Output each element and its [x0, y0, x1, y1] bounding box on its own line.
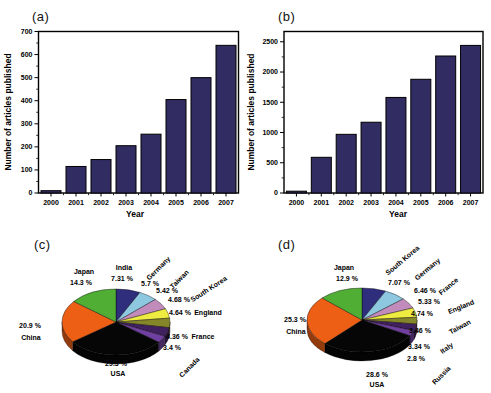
- panel-a-letter: (a): [32, 9, 49, 24]
- panel-b-letter: (b): [278, 9, 295, 24]
- y-axis-label: Number of articles published: [3, 53, 13, 170]
- charts-canvas: 0100200300400500600700200020012002200320…: [0, 0, 491, 393]
- bar-chart-b: 0500100015002000250020002001200220032004…: [246, 32, 483, 220]
- bar-2005: [411, 79, 431, 193]
- pie-label-USA: USA: [111, 370, 126, 377]
- y-tick-label: 200: [21, 143, 33, 150]
- pie-pct-USA: 28.6 %: [366, 371, 389, 378]
- pie-label-France: France: [437, 276, 459, 296]
- bar-2007: [461, 45, 481, 193]
- pie-pct-Canada: 3.4 %: [163, 344, 182, 351]
- y-tick-label: 2000: [262, 68, 278, 75]
- x-tick-label: 2005: [413, 199, 429, 206]
- x-tick-label: 2001: [314, 199, 330, 206]
- panel-c-letter: (c): [34, 237, 51, 252]
- y-tick-label: 0: [29, 189, 33, 196]
- pie-pct-Taiwan: 5.42 %: [156, 287, 179, 294]
- bar-2001: [311, 157, 331, 193]
- y-tick-label: 1500: [262, 99, 278, 106]
- y-tick-label: 2500: [262, 38, 278, 45]
- bar-2005: [166, 100, 186, 193]
- x-tick-label: 2000: [43, 199, 59, 206]
- pie-label-USA: USA: [370, 381, 385, 388]
- x-tick-label: 2007: [463, 199, 479, 206]
- pie-pct-England: 4.64 %: [169, 309, 192, 316]
- pie-label-South Korea: South Korea: [189, 275, 228, 304]
- pie-pct-China: 20.9 %: [19, 322, 42, 329]
- pie-pct-South Korea: 4.68 %: [168, 296, 191, 303]
- x-tick-label: 2007: [218, 199, 234, 206]
- pie-label-India: India: [116, 264, 132, 271]
- pie-label-England: England: [194, 309, 222, 317]
- pie-label-Taiwan: Taiwan: [448, 318, 472, 335]
- x-axis-label: Year: [389, 209, 408, 219]
- pie-pct-Japan: 12.9 %: [336, 275, 359, 282]
- bar-2002: [91, 160, 111, 193]
- pie-pct-USA: 29.3 %: [105, 360, 128, 367]
- x-axis-label: Year: [126, 209, 145, 219]
- x-tick-label: 2002: [93, 199, 109, 206]
- y-tick-label: 700: [21, 28, 33, 35]
- bar-2006: [436, 56, 456, 193]
- x-tick-label: 2004: [143, 199, 159, 206]
- y-tick-label: 500: [266, 159, 278, 166]
- pie-label-Germany: Germany: [145, 255, 172, 282]
- bar-2001: [66, 166, 86, 193]
- pie-chart-c: India7.31 %Germany5.7 %Taiwan5.42 %South…: [19, 255, 228, 379]
- bar-2002: [336, 134, 356, 193]
- pie-label-France: France: [192, 333, 215, 340]
- x-tick-label: 2001: [68, 199, 84, 206]
- panel-d-letter: (d): [278, 237, 295, 252]
- pie-pct-Italy: 3.34 %: [408, 343, 431, 350]
- x-tick-label: 2002: [338, 199, 354, 206]
- bar-2003: [361, 122, 381, 193]
- y-tick-label: 1000: [262, 129, 278, 136]
- y-tick-label: 400: [21, 97, 33, 104]
- y-tick-label: 100: [21, 166, 33, 173]
- y-axis-label: Number of articles published: [246, 53, 256, 170]
- x-tick-label: 2003: [363, 199, 379, 206]
- pie-pct-France: 4.36 %: [166, 333, 189, 340]
- pie-pct-South Korea: 7.07 %: [388, 279, 411, 286]
- y-tick-label: 600: [21, 51, 33, 58]
- pie-label-Russia: Russia: [431, 365, 452, 386]
- bar-chart-a: 0100200300400500600700200020012002200320…: [3, 28, 239, 219]
- y-tick-label: 0: [274, 189, 278, 196]
- bar-2004: [141, 134, 161, 193]
- pie-pct-France: 5.33 %: [418, 298, 441, 305]
- pie-label-England: England: [447, 298, 476, 316]
- pie-label-Japan: Japan: [74, 268, 94, 276]
- bar-2007: [216, 45, 236, 193]
- x-tick-label: 2006: [193, 199, 209, 206]
- pie-pct-Japan: 14.3 %: [70, 279, 93, 286]
- pie-pct-Taiwan: 3.46 %: [409, 327, 432, 334]
- bar-2003: [116, 146, 136, 193]
- bar-2004: [386, 97, 406, 193]
- bar-2000: [41, 191, 61, 193]
- pie-slices: [62, 289, 170, 355]
- pie-chart-d: South Korea7.07 %Germany6.46 %France5.33…: [284, 244, 475, 388]
- pie-pct-China: 25.3 %: [284, 316, 307, 323]
- bar-2000: [286, 191, 306, 193]
- pie-label-Italy: Italy: [439, 341, 455, 356]
- y-tick-label: 300: [21, 120, 33, 127]
- x-tick-label: 2000: [289, 199, 305, 206]
- pie-label-Germany: Germany: [414, 257, 442, 283]
- pie-label-South Korea: South Korea: [384, 244, 420, 276]
- pie-pct-Russia: 2.8 %: [407, 355, 426, 362]
- figure: 0100200300400500600700200020012002200320…: [0, 0, 491, 393]
- pie-label-Canada: Canada: [178, 356, 201, 379]
- bar-2006: [191, 78, 211, 193]
- x-tick-label: 2004: [388, 199, 404, 206]
- pie-label-Japan: Japan: [334, 264, 354, 272]
- pie-slices: [307, 288, 417, 352]
- pie-pct-Germany: 6.46 %: [414, 287, 437, 294]
- x-tick-label: 2005: [168, 199, 184, 206]
- pie-pct-India: 7.31 %: [111, 275, 134, 282]
- y-tick-label: 500: [21, 74, 33, 81]
- pie-label-China: China: [286, 328, 306, 335]
- pie-label-China: China: [21, 334, 41, 341]
- pie-pct-Germany: 5.7 %: [141, 280, 160, 287]
- x-tick-label: 2003: [118, 199, 134, 206]
- pie-pct-England: 4.74 %: [411, 310, 434, 317]
